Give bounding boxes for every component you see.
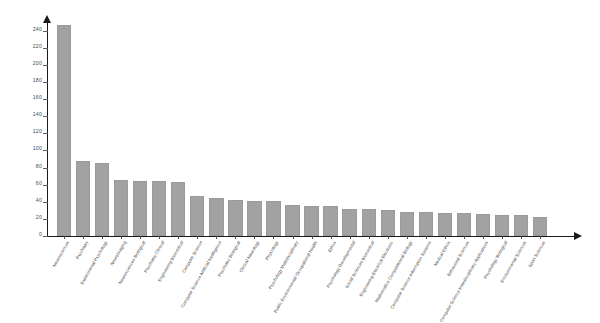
y-axis-tick-label: 200 bbox=[8, 60, 42, 66]
y-axis-tick-label: 160 bbox=[8, 94, 42, 100]
bar bbox=[133, 181, 147, 236]
x-axis-tick-label: Physiology bbox=[265, 240, 280, 261]
x-axis-tick-mark bbox=[293, 236, 294, 239]
bar bbox=[476, 214, 490, 236]
y-axis-tick-label: 60 bbox=[8, 180, 42, 186]
bar bbox=[209, 198, 223, 236]
x-axis-tick-mark bbox=[483, 236, 484, 239]
bar bbox=[76, 161, 90, 236]
x-axis-tick-mark bbox=[235, 236, 236, 239]
y-axis-tick-label: 80 bbox=[8, 163, 42, 169]
x-axis-tick-mark bbox=[216, 236, 217, 239]
y-axis-tick-label: 180 bbox=[8, 77, 42, 83]
y-axis-tick: 0 bbox=[0, 236, 600, 237]
y-axis-tick-label: 40 bbox=[8, 197, 42, 203]
x-axis-tick-mark bbox=[426, 236, 427, 239]
bar bbox=[323, 206, 337, 236]
x-axis-tick-mark bbox=[464, 236, 465, 239]
x-axis-tick-mark bbox=[121, 236, 122, 239]
bar bbox=[114, 180, 128, 236]
x-axis-tick-mark bbox=[502, 236, 503, 239]
x-axis-tick-mark bbox=[102, 236, 103, 239]
bar bbox=[381, 210, 395, 236]
x-axis-tick-mark bbox=[388, 236, 389, 239]
x-axis-tick-label: Engineering Electrical Electronic bbox=[358, 240, 394, 297]
x-axis-tick-label: Computer Science Information Systems bbox=[389, 240, 432, 310]
x-axis-tick-mark bbox=[159, 236, 160, 239]
bar bbox=[438, 213, 452, 236]
x-axis-tick-label: Neuroimaging bbox=[109, 240, 127, 266]
x-axis-tick-mark bbox=[445, 236, 446, 239]
x-axis-tick-mark bbox=[540, 236, 541, 239]
x-axis-tick-mark bbox=[369, 236, 370, 239]
x-axis-tick-mark bbox=[83, 236, 84, 239]
y-axis-tick-label: 140 bbox=[8, 111, 42, 117]
y-axis-tick-label: 100 bbox=[8, 145, 42, 151]
bar bbox=[400, 212, 414, 236]
plot-area bbox=[48, 22, 574, 236]
x-axis-tick-mark bbox=[312, 236, 313, 239]
x-axis-tick-mark bbox=[350, 236, 351, 239]
x-axis-tick-label: Sport Sciences bbox=[527, 240, 546, 268]
y-axis-tick-mark bbox=[43, 236, 48, 237]
x-axis-tick-mark bbox=[254, 236, 255, 239]
y-axis-tick-label: 120 bbox=[8, 128, 42, 134]
x-axis-tick-label: Ethics bbox=[327, 240, 337, 253]
y-axis-tick-label: 220 bbox=[8, 43, 42, 49]
bar bbox=[152, 181, 166, 236]
x-axis-tick-mark bbox=[273, 236, 274, 239]
bar bbox=[266, 201, 280, 236]
bar bbox=[304, 206, 318, 236]
bar bbox=[171, 182, 185, 236]
bar bbox=[362, 209, 376, 236]
x-axis-tick-mark bbox=[407, 236, 408, 239]
bar bbox=[228, 200, 242, 236]
x-axis-tick-label: Medical Ethics bbox=[433, 240, 452, 267]
y-axis-tick-label: 0 bbox=[8, 231, 42, 237]
y-axis-tick-label: 240 bbox=[8, 26, 42, 32]
x-axis-tick-mark bbox=[64, 236, 65, 239]
bar bbox=[95, 163, 109, 236]
x-axis-tick-label: Psychiatry Biological bbox=[217, 240, 242, 278]
x-axis-tick-mark bbox=[331, 236, 332, 239]
bar bbox=[457, 213, 471, 236]
x-axis-tick-mark bbox=[178, 236, 179, 239]
bar bbox=[285, 205, 299, 236]
bar bbox=[419, 212, 433, 236]
bar bbox=[514, 215, 528, 236]
bar bbox=[533, 217, 547, 236]
x-axis-tick-mark bbox=[521, 236, 522, 239]
x-axis-tick-mark bbox=[197, 236, 198, 239]
bar bbox=[57, 25, 71, 236]
bar bbox=[495, 215, 509, 236]
y-axis-tick-label: 20 bbox=[8, 214, 42, 220]
x-axis-tick-label: Mathematics Computational Biology bbox=[374, 240, 413, 303]
bar bbox=[190, 196, 204, 236]
x-axis-tick-label: Clinical Neurology bbox=[239, 240, 261, 273]
bar bbox=[247, 201, 261, 236]
bar bbox=[342, 209, 356, 236]
x-axis-tick-mark bbox=[140, 236, 141, 239]
x-axis-tick-label: Neurosciences bbox=[51, 240, 70, 268]
x-axis-tick-label: Psychiatry bbox=[75, 240, 89, 260]
